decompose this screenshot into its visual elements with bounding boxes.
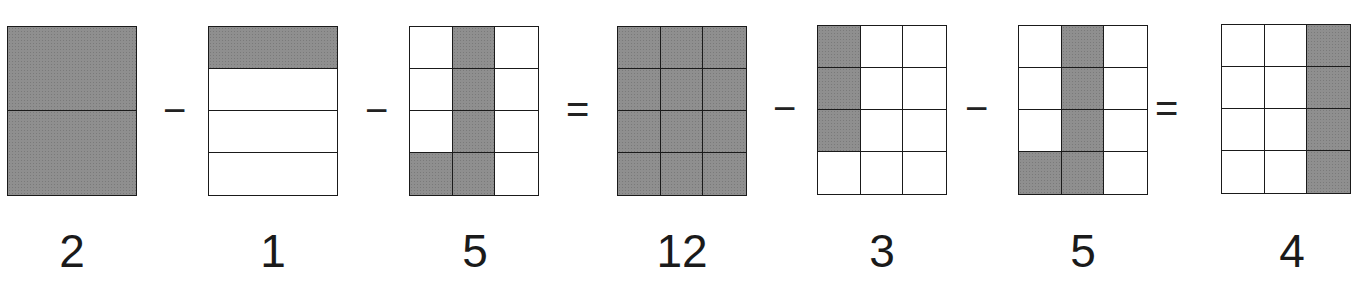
empty-cell xyxy=(1019,26,1062,68)
shaded-cell xyxy=(818,26,861,68)
empty-cell xyxy=(209,69,337,111)
shaded-cell xyxy=(1062,152,1105,194)
empty-cell xyxy=(1265,67,1308,109)
empty-cell xyxy=(1222,151,1265,193)
shaded-cell xyxy=(1062,110,1105,152)
shaded-cell xyxy=(453,111,496,153)
shaded-cell xyxy=(618,153,661,195)
minus-sign: − xyxy=(365,90,388,130)
minus-sign: − xyxy=(773,88,796,128)
figure-label-4: 12 xyxy=(612,228,752,274)
figure-label-1: 2 xyxy=(2,228,142,274)
fraction-grid-3 xyxy=(409,26,539,196)
shaded-cell xyxy=(1307,109,1350,151)
shaded-cell xyxy=(818,110,861,152)
shaded-cell xyxy=(661,69,704,111)
empty-cell xyxy=(410,27,453,69)
figure-label-6: 5 xyxy=(1013,228,1153,274)
empty-cell xyxy=(1104,152,1147,194)
empty-cell xyxy=(410,69,453,111)
empty-cell xyxy=(1019,68,1062,110)
fraction-grid-5 xyxy=(817,25,947,195)
shaded-cell xyxy=(1307,25,1350,67)
fraction-grid-6 xyxy=(1018,25,1148,195)
empty-cell xyxy=(903,152,946,194)
shaded-cell xyxy=(1307,67,1350,109)
empty-cell xyxy=(410,111,453,153)
figure-label-7: 4 xyxy=(1222,228,1355,274)
empty-cell xyxy=(1104,26,1147,68)
shaded-cell xyxy=(1019,152,1062,194)
figure-label-5: 3 xyxy=(812,228,952,274)
shaded-cell xyxy=(453,27,496,69)
shaded-cell xyxy=(8,111,136,195)
empty-cell xyxy=(861,110,904,152)
empty-cell xyxy=(495,27,538,69)
empty-cell xyxy=(903,110,946,152)
empty-cell xyxy=(209,153,337,195)
minus-sign: − xyxy=(965,88,988,128)
figure-label-3: 5 xyxy=(405,228,545,274)
shaded-cell xyxy=(703,153,746,195)
empty-cell xyxy=(1222,67,1265,109)
shaded-cell xyxy=(661,27,704,69)
empty-cell xyxy=(903,68,946,110)
shaded-cell xyxy=(818,68,861,110)
empty-cell xyxy=(1104,68,1147,110)
shaded-cell xyxy=(1307,151,1350,193)
shaded-cell xyxy=(703,69,746,111)
shaded-cell xyxy=(1062,26,1105,68)
shaded-cell xyxy=(453,153,496,195)
empty-cell xyxy=(861,68,904,110)
figure-label-2: 1 xyxy=(203,228,343,274)
shaded-cell xyxy=(703,27,746,69)
shaded-cell xyxy=(703,111,746,153)
fraction-grid-2 xyxy=(208,26,338,196)
fraction-grid-1 xyxy=(7,26,137,196)
empty-cell xyxy=(861,26,904,68)
shaded-cell xyxy=(618,27,661,69)
empty-cell xyxy=(495,69,538,111)
empty-cell xyxy=(495,153,538,195)
empty-cell xyxy=(903,26,946,68)
empty-cell xyxy=(1265,151,1308,193)
empty-cell xyxy=(1265,109,1308,151)
shaded-cell xyxy=(209,27,337,69)
shaded-cell xyxy=(661,153,704,195)
shaded-cell xyxy=(410,153,453,195)
empty-cell xyxy=(1222,109,1265,151)
empty-cell xyxy=(209,111,337,153)
empty-cell xyxy=(1265,25,1308,67)
empty-cell xyxy=(818,152,861,194)
shaded-cell xyxy=(661,111,704,153)
shaded-cell xyxy=(1062,68,1105,110)
shaded-cell xyxy=(618,69,661,111)
shaded-cell xyxy=(453,69,496,111)
empty-cell xyxy=(1104,110,1147,152)
empty-cell xyxy=(1222,25,1265,67)
equals-sign: = xyxy=(1155,88,1178,128)
empty-cell xyxy=(1019,110,1062,152)
empty-cell xyxy=(861,152,904,194)
fraction-grid-7 xyxy=(1221,24,1351,194)
shaded-cell xyxy=(618,111,661,153)
shaded-cell xyxy=(8,27,136,111)
equals-sign: = xyxy=(566,89,589,129)
empty-cell xyxy=(495,111,538,153)
minus-sign: − xyxy=(163,90,186,130)
fraction-grid-4 xyxy=(617,26,747,196)
